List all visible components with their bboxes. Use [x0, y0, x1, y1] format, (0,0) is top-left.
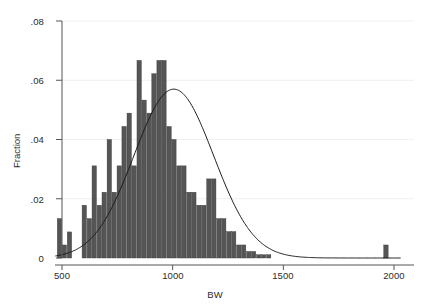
histogram-bar: [202, 205, 206, 258]
histogram-bar: [102, 192, 106, 258]
gridlines: [62, 21, 414, 199]
histogram-bar: [172, 140, 176, 259]
histogram-bars: [57, 60, 388, 258]
histogram-bar: [231, 232, 235, 258]
ytick-label-4: 0: [20, 253, 44, 264]
histogram-bar: [122, 126, 126, 258]
histogram-bar: [162, 60, 166, 258]
plot-area: [0, 0, 423, 307]
histogram-bar: [207, 179, 211, 258]
ytick-label-3: .02: [20, 194, 44, 205]
histogram-bar: [261, 255, 265, 258]
histogram-bar: [217, 219, 221, 258]
histogram-bar: [197, 205, 201, 258]
histogram-bar: [167, 126, 171, 258]
histogram-bar: [237, 245, 241, 258]
histogram-bar: [384, 245, 388, 258]
xtick-label-2000: 2000: [376, 270, 412, 281]
histogram-chart: .08 .06 .04 .02 0 500 1000 1500 2000 Fra…: [0, 0, 423, 307]
x-axis-title: BW: [190, 289, 240, 300]
histogram-bar: [212, 179, 216, 258]
xtick-label-1000: 1000: [155, 270, 191, 281]
histogram-bar: [152, 74, 156, 258]
histogram-bar: [241, 245, 245, 258]
ytick-label-0: .08: [20, 16, 44, 27]
histogram-bar: [192, 192, 196, 258]
xtick-label-1500: 1500: [265, 270, 301, 281]
histogram-bar: [157, 60, 161, 258]
histogram-bar: [247, 251, 251, 258]
histogram-bar: [187, 192, 191, 258]
histogram-bar: [92, 166, 96, 258]
histogram-bar: [257, 255, 261, 258]
xtick-label-500: 500: [44, 270, 80, 281]
histogram-bar: [97, 205, 101, 258]
histogram-bar: [227, 232, 231, 258]
ytick-label-2: .04: [20, 134, 44, 145]
histogram-bar: [62, 245, 66, 258]
histogram-bar: [177, 166, 181, 258]
histogram-bar: [132, 166, 136, 258]
histogram-bar: [137, 60, 141, 258]
histogram-bar: [147, 113, 151, 258]
histogram-bar: [182, 166, 186, 258]
histogram-bar: [142, 100, 146, 258]
y-axis-title: Fraction: [11, 134, 22, 168]
histogram-bar: [67, 232, 71, 258]
histogram-bar: [222, 219, 226, 258]
histogram-bar: [82, 205, 86, 258]
histogram-bar: [127, 113, 131, 258]
histogram-bar: [117, 166, 121, 258]
histogram-bar: [251, 251, 255, 258]
histogram-bar: [107, 140, 111, 259]
histogram-bar: [57, 219, 61, 258]
histogram-bar: [266, 255, 270, 258]
ytick-label-1: .06: [20, 75, 44, 86]
